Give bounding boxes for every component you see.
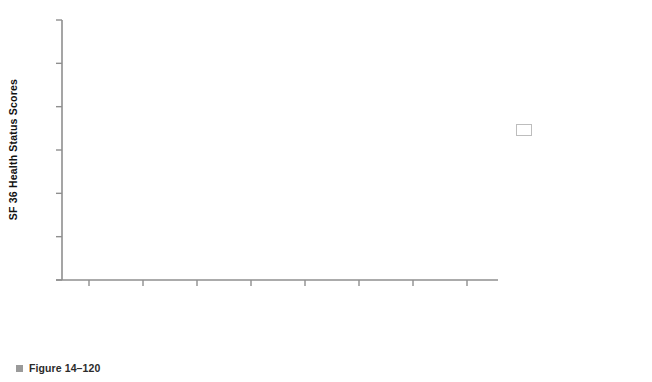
caption-bullet-icon <box>16 365 23 372</box>
figure-caption: Figure 14–120 <box>16 362 100 374</box>
x-axis-tick-labels <box>62 284 494 374</box>
chart-legend <box>516 124 532 136</box>
y-axis-tick-labels <box>10 20 56 280</box>
chart-canvas <box>62 20 494 280</box>
figure-root: SF 36 Health Status Scores Figure 14–120 <box>0 0 652 382</box>
caption-text: Figure 14–120 <box>29 362 100 374</box>
plot-area <box>62 20 494 280</box>
